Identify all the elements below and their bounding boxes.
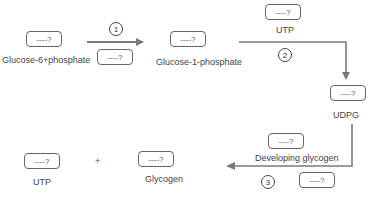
utp-top-label: UTP [276,25,294,35]
udpg-answer-box[interactable]: ----? [330,85,366,101]
developing-glycogen-label: Developing glycogen [255,153,339,163]
step-1-enzyme-answer-box[interactable]: ----? [97,49,133,65]
step-3-enzyme-answer-box[interactable]: ----? [299,172,335,188]
developing-glycogen-answer-box[interactable]: ----? [268,133,304,149]
step-1-marker: 1 [109,22,123,36]
utp-top-answer-box[interactable]: ----? [265,4,301,20]
glucose-1-phosphate-label: Glucose-1-phosphate [156,57,242,67]
glycogen-label: Glycogen [145,174,183,184]
step-3-marker: 3 [261,175,275,189]
connector-lines [0,0,372,199]
utp-bottom-label: UTP [33,177,51,187]
plus-sign: + [95,156,100,166]
step-2-marker: 2 [278,48,292,62]
glycogen-answer-box[interactable]: ----? [138,151,174,167]
utp-bottom-answer-box[interactable]: ----? [24,153,60,169]
udpg-label: UDPG [333,110,359,120]
glucose-6-phosphate-label: Glucose-6+phosphate [2,55,90,65]
glucose-6-phosphate-answer-box[interactable]: ----? [26,31,62,47]
glucose-1-phosphate-answer-box[interactable]: ----? [170,31,206,47]
